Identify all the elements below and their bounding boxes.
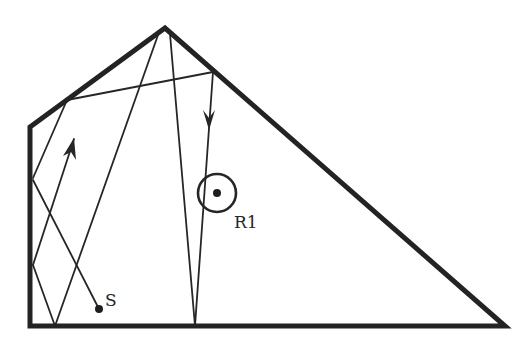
ray-bottom-to-left-wall [33,265,55,326]
arrow-down-icon [203,110,215,130]
receiver-label: R1 [234,212,258,232]
receiver: R1 [198,174,258,232]
ray-source-to-left-wall [33,180,99,309]
ray-left-wall-to-arrow [33,139,74,265]
ray-apex-to-bottom-left [55,35,158,326]
rays-group [33,34,213,326]
arrows-group [63,110,215,160]
source-label: S [105,290,117,310]
ray-diagram: R1 S [0,0,529,347]
arrow-up-right-icon [63,138,76,160]
receiver-dot-icon [213,189,221,197]
room-outline [30,28,505,326]
source: S [95,290,117,313]
source-dot-icon [95,305,103,313]
